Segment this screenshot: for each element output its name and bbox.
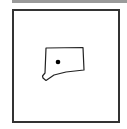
- state-map: [0, 0, 127, 129]
- state-outline-connecticut: [43, 48, 85, 81]
- capital-marker-dot: [56, 60, 61, 65]
